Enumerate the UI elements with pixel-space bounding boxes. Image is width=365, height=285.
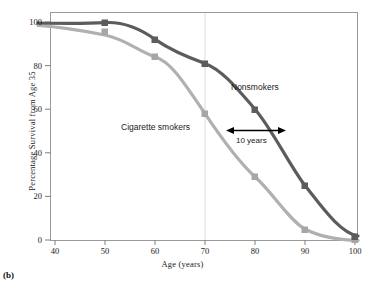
x-tick-label-40: 40 (51, 246, 60, 256)
x-tick-label-70: 70 (201, 246, 210, 256)
series-label-cigarette-smokers: Cigarette smokers (121, 122, 190, 132)
series-label-nonsmokers: Nonsmokers (231, 82, 279, 92)
x-tick-label-100: 100 (349, 246, 362, 256)
y-tick-label-100: 100 (14, 17, 42, 27)
plot-frame (51, 13, 358, 241)
x-tick-label-50: 50 (101, 246, 110, 256)
x-axis-ticks (55, 241, 355, 246)
figure-panel: 40 50 60 70 80 90 100 0 20 40 60 80 100 … (0, 0, 365, 285)
plot-border (51, 13, 358, 241)
x-tick-label-90: 90 (301, 246, 310, 256)
y-axis-title: Percentage Survival from Age 35 (27, 36, 37, 226)
x-tick-label-80: 80 (251, 246, 260, 256)
panel-caption: (b) (3, 270, 14, 280)
x-axis-title: Age (years) (0, 259, 365, 269)
y-tick-label-0: 0 (14, 235, 42, 245)
x-tick-label-60: 60 (151, 246, 160, 256)
annotation-label-ten-years: 10 years (236, 136, 267, 145)
y-axis-ticks (45, 22, 51, 240)
survival-curve-chart (0, 0, 365, 285)
